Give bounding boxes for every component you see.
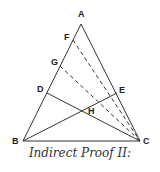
point-label-g: G: [51, 57, 58, 67]
segment-ab: [23, 24, 81, 141]
segment-gc-dashed: [60, 66, 140, 141]
segment-be: [23, 93, 117, 141]
diagram-caption: Indirect Proof II:: [0, 146, 160, 160]
segment-fc-dashed: [73, 40, 140, 141]
point-label-a: A: [78, 9, 85, 19]
point-label-d: D: [37, 84, 44, 94]
point-label-h: H: [88, 106, 95, 116]
point-label-e: E: [119, 85, 125, 95]
point-label-f: F: [64, 32, 70, 42]
point-label-b: B: [12, 136, 19, 146]
segment-ac: [81, 24, 140, 141]
segment-dc: [47, 93, 140, 141]
point-label-c: C: [143, 136, 150, 146]
